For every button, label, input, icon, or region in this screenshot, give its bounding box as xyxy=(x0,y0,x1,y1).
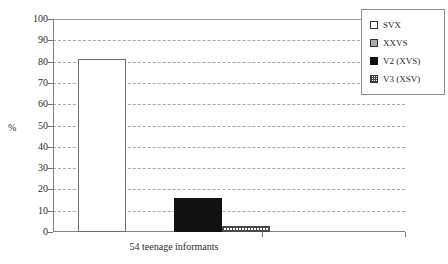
y-tick-label: 100 xyxy=(6,14,48,24)
y-tick-label: 90 xyxy=(6,35,48,45)
y-tick-label: 20 xyxy=(6,184,48,194)
y-tick-label: 80 xyxy=(6,57,48,67)
legend-item-svx[interactable]: SVX xyxy=(362,16,444,34)
y-tick-label: 30 xyxy=(6,163,48,173)
bar-svx xyxy=(78,59,126,232)
y-tick-label: 40 xyxy=(6,142,48,152)
legend-swatch-icon-svx xyxy=(370,21,378,29)
y-tick-label: 0 xyxy=(6,227,48,237)
y-tick-label: 60 xyxy=(6,99,48,109)
chart-legend: SVX XXVS V2 (XVS) V3 (XSV) xyxy=(361,9,445,95)
x-axis-label: 54 teenage informants xyxy=(84,241,264,252)
bar-chart: 1009080706050403020100 % 54 teenage info… xyxy=(0,0,448,264)
legend-label-xxvs: XXVS xyxy=(383,39,408,48)
legend-label-v2: V2 (XVS) xyxy=(383,57,420,66)
legend-item-xxvs[interactable]: XXVS xyxy=(362,34,444,52)
legend-swatch-icon-v3 xyxy=(370,75,378,83)
legend-label-svx: SVX xyxy=(383,21,401,30)
y-tick-mark xyxy=(48,232,53,233)
bar-v2 xyxy=(174,198,222,232)
legend-label-v3: V3 (XSV) xyxy=(383,75,420,84)
x-tick-mark xyxy=(262,232,263,237)
legend-swatch-icon-v2 xyxy=(370,57,378,65)
legend-item-v3[interactable]: V3 (XSV) xyxy=(362,70,444,88)
x-tick-mark xyxy=(405,232,406,237)
legend-item-v2[interactable]: V2 (XVS) xyxy=(362,52,444,70)
legend-swatch-icon-xxvs xyxy=(370,39,378,47)
y-axis-title: % xyxy=(8,122,16,133)
y-tick-label: 10 xyxy=(6,206,48,216)
y-tick-label: 70 xyxy=(6,78,48,88)
